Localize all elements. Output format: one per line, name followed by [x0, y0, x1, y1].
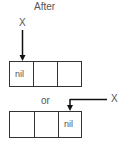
bottom-cell-2: nil: [64, 120, 73, 129]
bottom-pointer-arrow: [67, 99, 107, 111]
top-cell-0: nil: [15, 70, 24, 79]
top-pointer-arrow: [20, 30, 26, 61]
